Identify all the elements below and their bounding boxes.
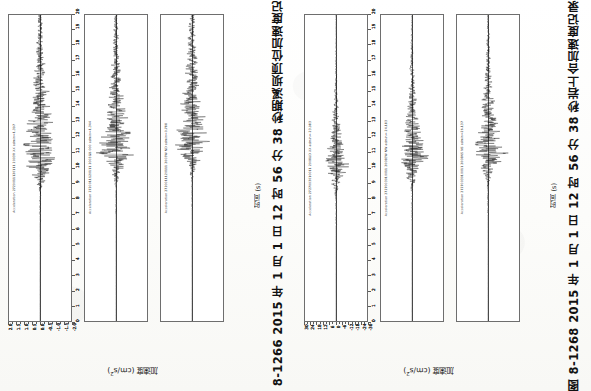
y-axis-label: 加速度 (cm/s2): [296, 366, 561, 377]
time-tick-label: 3: [75, 273, 80, 276]
amplitude-tick-label: -12: [349, 324, 354, 331]
time-tick-label: 18: [75, 39, 80, 44]
tick-mark: [320, 322, 321, 324]
x-axis-label: 时间 (s): [547, 0, 561, 391]
amplitude-tick-label: 18: [317, 324, 322, 329]
time-tick-label: 13: [371, 116, 376, 121]
tick-mark: [368, 106, 371, 107]
time-tick-label: 6: [75, 227, 80, 230]
time-tick-label: 15: [75, 86, 80, 91]
tick-mark: [28, 322, 29, 324]
time-tick-label: 15: [371, 86, 376, 91]
x-axis-label: 时间 (s): [251, 0, 265, 391]
amplitude-tick-label: -18: [355, 324, 360, 331]
amplitude-tick-label: -1.5: [64, 323, 69, 331]
amplitude-tick-label: 1.5: [16, 324, 21, 331]
tick-mark: [339, 322, 340, 324]
tick-mark: [364, 322, 365, 324]
time-tick-label: 5: [371, 242, 376, 245]
amplitude-tick-label: -0.5: [48, 323, 53, 331]
amplitude-tick-label: 30: [304, 324, 309, 329]
tick-mark: [36, 322, 37, 324]
time-tick-label: 18: [371, 39, 376, 44]
tick-mark: [345, 322, 346, 324]
time-tick-label: 4: [371, 258, 376, 261]
time-tick-label: 17: [75, 55, 80, 60]
time-tick-label: 16: [75, 70, 80, 75]
time-tick-label: 20: [75, 9, 80, 14]
time-tick-label: 19: [371, 24, 376, 29]
time-tick-label: 10: [75, 163, 80, 168]
time-tick-label: 9: [75, 181, 80, 184]
time-tick-label: 0: [75, 319, 80, 322]
time-axis: 01234567891011121314151617181920: [72, 14, 98, 322]
tick-mark: [44, 322, 45, 324]
time-tick-label: 11: [371, 147, 376, 152]
tick-mark: [60, 322, 61, 324]
amplitude-tick-label: 12: [323, 324, 328, 329]
tick-mark: [12, 322, 13, 324]
panel-label: Acceleration 2720011120111 2003R XX admi…: [12, 15, 21, 321]
time-tick-label: 12: [75, 132, 80, 137]
tick-mark: [368, 29, 371, 30]
tick-mark: [52, 322, 53, 324]
time-tick-label: 19: [75, 24, 80, 29]
y-axis-label: 加速度 (cm/s2): [0, 366, 265, 377]
amplitude-tick-label: 6: [330, 326, 335, 329]
amplitude-tick-label: 0.0: [40, 324, 45, 331]
time-tick-label: 8: [75, 196, 80, 199]
panel-group-1: Acceleration 2720011120111 2003R XX admi…: [8, 14, 232, 352]
time-tick-label: 12: [371, 132, 376, 137]
tick-mark: [20, 322, 21, 324]
time-axis: 01234567891011121314151617181920: [368, 14, 394, 322]
amplitude-tick-label: 0.5: [32, 324, 37, 331]
figure-8-1268: Acceleration 2727003010011 2008UD XX adm…: [296, 0, 591, 391]
tick-mark: [368, 260, 371, 261]
time-tick-label: 8: [371, 196, 376, 199]
accelerogram-panel: Acceleration 2720011120111 2003R XX admi…: [8, 14, 72, 322]
amplitude-tick-label: -30: [368, 324, 373, 331]
amplitude-tick-label: -1.0: [56, 323, 61, 331]
tick-mark: [72, 260, 75, 261]
time-tick-label: 2: [75, 289, 80, 292]
time-tick-label: 7: [75, 212, 80, 215]
tick-mark: [72, 183, 75, 184]
panel-label: Acceleration 2720011120111 2003W ND admi…: [164, 15, 173, 321]
amplitude-tick-label: -2.0: [72, 323, 77, 331]
tick-mark: [68, 322, 69, 324]
figure-8-1266: Acceleration 2720011120111 2003R XX admi…: [0, 0, 295, 391]
time-tick-label: 3: [371, 273, 376, 276]
time-tick-label: 14: [75, 101, 80, 106]
panel-label: Acceleration 2727003010011 2008NS NS adm…: [460, 15, 469, 321]
time-tick-label: 17: [371, 55, 376, 60]
time-tick-label: 7: [371, 212, 376, 215]
time-tick-label: 5: [75, 242, 80, 245]
amplitude-tick-label: 0: [336, 326, 341, 329]
amplitude-tick-label: 2.0: [8, 324, 13, 331]
figure-caption: 图 8-1268 2015 年 1 月 1 日 12 时 56 分 38 秒岩上…: [561, 0, 587, 391]
tick-mark: [72, 106, 75, 107]
time-tick-label: 0: [371, 319, 376, 322]
time-tick-label: 14: [371, 101, 376, 106]
time-tick-label: 10: [371, 163, 376, 168]
panel-label: Acceleration 2727003010011 2008UD XX adm…: [308, 15, 317, 321]
amplitude-tick-label: 24: [310, 324, 315, 329]
tick-mark: [307, 322, 308, 324]
time-tick-label: 20: [371, 9, 376, 14]
time-tick-label: 2: [371, 289, 376, 292]
accelerogram-panel: Acceleration 2720011120111 2003W ND admi…: [160, 14, 224, 322]
tick-mark: [332, 322, 333, 324]
tick-mark: [326, 322, 327, 324]
amplitude-tick-label: -6: [342, 325, 347, 329]
time-tick-label: 11: [75, 147, 80, 152]
amplitude-tick-label: 1.0: [24, 324, 29, 331]
tick-mark: [313, 322, 314, 324]
time-tick-label: 16: [371, 70, 376, 75]
tick-mark: [368, 183, 371, 184]
time-tick-label: 13: [75, 116, 80, 121]
panel-group-2: Acceleration 2727003010011 2008UD XX adm…: [304, 14, 528, 352]
amplitude-axis: 3024181260-6-12-18-24-30: [304, 322, 368, 348]
time-tick-label: 4: [75, 258, 80, 261]
scanned-page: Acceleration 2720011120111 2003R XX admi…: [0, 0, 591, 391]
time-tick-label: 9: [371, 181, 376, 184]
